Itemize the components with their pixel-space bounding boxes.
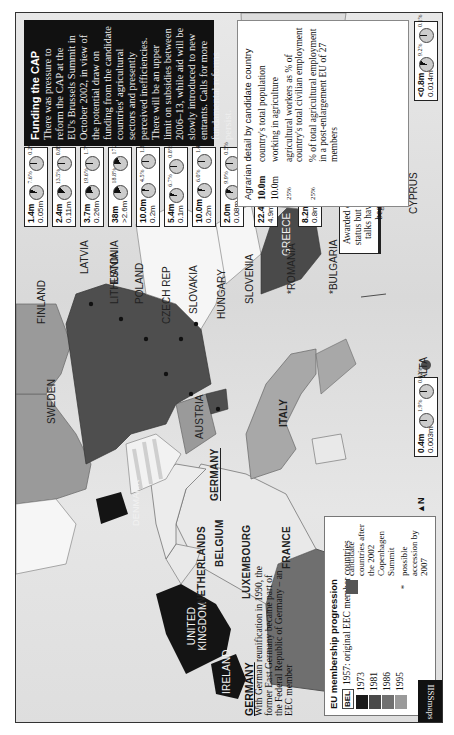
pie-chart-icon xyxy=(113,185,128,200)
pie-chart-icon xyxy=(141,183,156,198)
pie-chart-icon xyxy=(419,413,434,428)
pie-chart-icon xyxy=(169,159,184,174)
map-frame: FINLAND SWEDEN DENMARK GERMANY AUSTRIA I… xyxy=(15,12,443,723)
legend-row: 10.0mworking in agriculture xyxy=(270,27,281,200)
map-canvas: FINLAND SWEDEN DENMARK GERMANY AUSTRIA I… xyxy=(16,13,443,723)
label-united-kingdom: UNITED KINGDOM xyxy=(186,596,208,656)
data-box-latvia: 2.4m0.11m 13.5% 0.8% xyxy=(52,147,76,227)
legend-row: *possible accession by 2007 xyxy=(399,516,429,594)
legend-row: candidate countries after the 2002 Copen… xyxy=(346,516,396,594)
north-arrow-icon: ▲N xyxy=(416,498,426,513)
eu-legend-title: EU membership progression xyxy=(329,523,339,709)
label-germany: GERMANY xyxy=(209,448,221,501)
label-belgium: BELGIUM xyxy=(214,519,225,567)
funding-body: There was pressure to reform the CAP at … xyxy=(42,26,234,140)
label-ireland: IRELAND xyxy=(221,649,232,694)
pie-chart-icon xyxy=(419,384,434,399)
legend-row: 10.0mcountry's total population xyxy=(257,27,268,200)
callout-slovakia: SLOVAKIA xyxy=(188,265,199,314)
data-box-estonia: 1.4m0.05m 7.6% 0.2% xyxy=(24,147,48,227)
data-box-hungary: 10.0m0.2m 6.0% 1.4% xyxy=(192,147,216,227)
legend-row: 25%agricultural workers as % of country'… xyxy=(284,27,305,200)
pie-chart-icon xyxy=(29,185,44,200)
legend-row: 25%% of total agricultural employment in… xyxy=(308,27,340,200)
label-denmark: DENMARK xyxy=(131,480,141,526)
pie-chart-icon xyxy=(197,154,212,169)
agrarian-legend-title: Agrarian detail by candidate country xyxy=(243,27,254,200)
callout-bulgaria: *BULGARIA xyxy=(328,240,339,294)
callout-lithuania: LITHUANIA xyxy=(109,252,120,304)
callout-hungary: HUNGARY xyxy=(216,269,227,319)
callout-slovenia: SLOVENIA xyxy=(244,254,255,304)
germany-note-title: GERMANY xyxy=(244,566,254,716)
data-box-cyprus: <0.8m0.014m 9.2% 0.1% xyxy=(414,21,438,101)
pie-chart-icon xyxy=(113,156,128,171)
data-box-malta: 0.4m0.003m 1.9% 0.02% xyxy=(414,377,438,457)
data-box-czech: 10.0m0.2m 4.5% 1.3% xyxy=(136,147,160,227)
germany-note-body: With German reunification in 1990, the f… xyxy=(254,566,294,716)
funding-box: Funding the CAP There was pressure to re… xyxy=(24,20,214,146)
label-netherlands: NETHERLANDS xyxy=(196,526,207,604)
pie-chart-icon xyxy=(197,183,212,198)
data-box-slovakia: 5.4m0.1m 6.7% 0.8% xyxy=(164,147,188,227)
label-finland: FINLAND xyxy=(36,280,47,324)
pie-chart-icon xyxy=(419,57,434,72)
pie-chart-icon xyxy=(57,156,72,171)
pie-chart-icon xyxy=(57,185,72,200)
data-box-poland: 38m>2.6m 18.8% 17.2% xyxy=(108,147,132,227)
publisher-logo: IISSmaps xyxy=(418,680,443,723)
pie-chart-icon xyxy=(419,28,434,43)
pie-chart-icon xyxy=(29,156,44,171)
funding-title: Funding the CAP xyxy=(29,26,41,140)
callout-cyprus: CYPRUS xyxy=(408,172,419,214)
callout-latvia: LATVIA xyxy=(79,240,90,274)
callout-czech: CZECH REP xyxy=(161,266,172,324)
data-box-lithuania: 3.7m0.26m 19.6% 1.7% xyxy=(80,147,104,227)
pie-chart-icon xyxy=(141,154,156,169)
pie-chart-icon xyxy=(169,188,184,203)
pie-chart-icon xyxy=(85,185,100,200)
label-austria: AUSTRIA xyxy=(194,394,205,439)
callout-romania: *ROMANIA xyxy=(286,243,297,294)
callout-poland: POLAND xyxy=(134,263,145,304)
label-sweden: SWEDEN xyxy=(46,379,57,424)
agrarian-legend: Agrarian detail by candidate country 10.… xyxy=(237,20,409,207)
label-france: FRANCE xyxy=(281,526,292,569)
germany-note: GERMANY With German reunification in 199… xyxy=(244,566,294,716)
eu-legend-right-column: candidate countries after the 2002 Copen… xyxy=(346,516,429,594)
pie-chart-icon xyxy=(85,156,100,171)
label-italy: ITALY xyxy=(278,399,289,427)
